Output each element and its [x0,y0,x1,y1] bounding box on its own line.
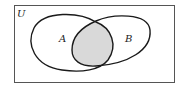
set-a-label: A [59,34,66,44]
universe-label: U [17,9,25,19]
set-b-label: B [125,34,132,44]
venn-diagram [0,0,182,87]
